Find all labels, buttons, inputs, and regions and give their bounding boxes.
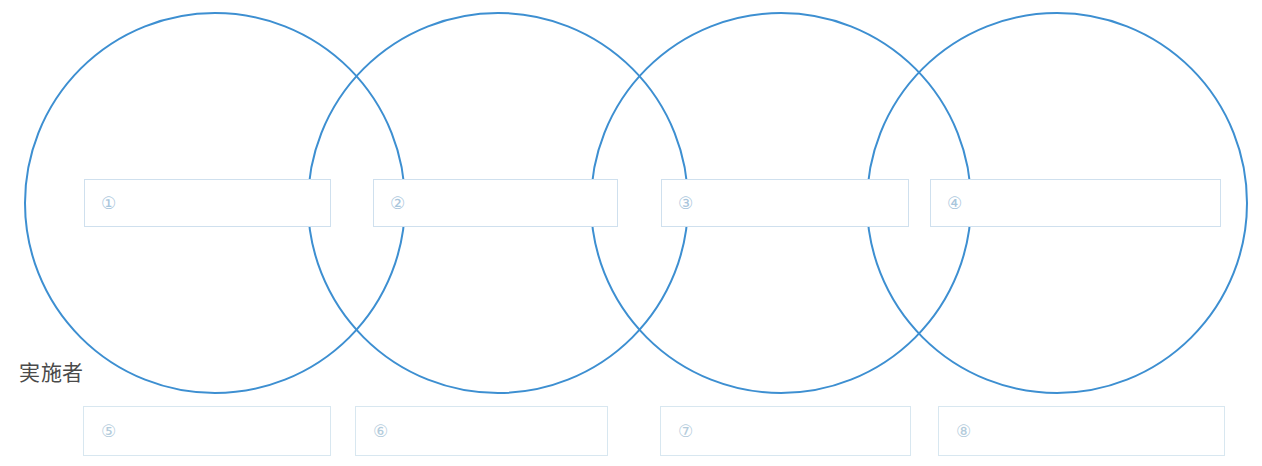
phase-box-1-number: ①	[101, 195, 116, 212]
actor-box-7[interactable]: ⑦	[660, 406, 911, 456]
actor-box-8[interactable]: ⑧	[938, 406, 1225, 456]
actor-box-6[interactable]: ⑥	[355, 406, 608, 456]
actor-box-7-number: ⑦	[678, 423, 693, 440]
actor-box-8-number: ⑧	[956, 423, 971, 440]
phase-box-4-number: ④	[947, 195, 962, 212]
phase-box-1[interactable]: ①	[84, 179, 331, 227]
actor-box-6-number: ⑥	[373, 423, 388, 440]
phase-box-3[interactable]: ③	[661, 179, 909, 227]
diagram-canvas: ① ② ③ ④ 実施者 ⑤ ⑥ ⑦ ⑧	[0, 0, 1262, 466]
phase-box-3-number: ③	[678, 195, 693, 212]
actor-row-label: 実施者	[19, 361, 84, 386]
phase-box-2[interactable]: ②	[373, 179, 618, 227]
actor-box-5[interactable]: ⑤	[83, 406, 331, 456]
phase-box-4[interactable]: ④	[930, 179, 1221, 227]
actor-box-5-number: ⑤	[101, 423, 116, 440]
circle-layer	[0, 0, 1262, 466]
phase-box-2-number: ②	[390, 195, 405, 212]
